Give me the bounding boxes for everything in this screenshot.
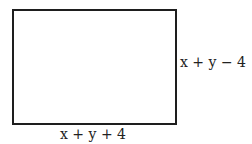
rectangle-shape (12, 9, 177, 125)
right-side-label: x + y − 4 (180, 55, 246, 69)
bottom-side-label: x + y + 4 (60, 127, 126, 141)
